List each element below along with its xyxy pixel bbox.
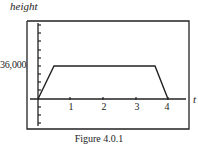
y-axis-label: height (10, 0, 38, 12)
x-tick-label-2: 2 (102, 101, 107, 112)
x-tick-label-4: 4 (165, 101, 170, 112)
figure: height t 36,000 1 2 3 4 Figure 4.0.1 (0, 0, 198, 146)
height-vs-time-graph (0, 0, 198, 146)
y-tick-label: 36,000 (0, 59, 26, 70)
figure-caption: Figure 4.0.1 (0, 133, 198, 144)
x-axis-label: t (193, 93, 196, 105)
height-curve (38, 66, 168, 99)
plot-frame (27, 21, 189, 129)
x-tick-label-3: 3 (135, 101, 140, 112)
x-tick-label-1: 1 (69, 101, 74, 112)
